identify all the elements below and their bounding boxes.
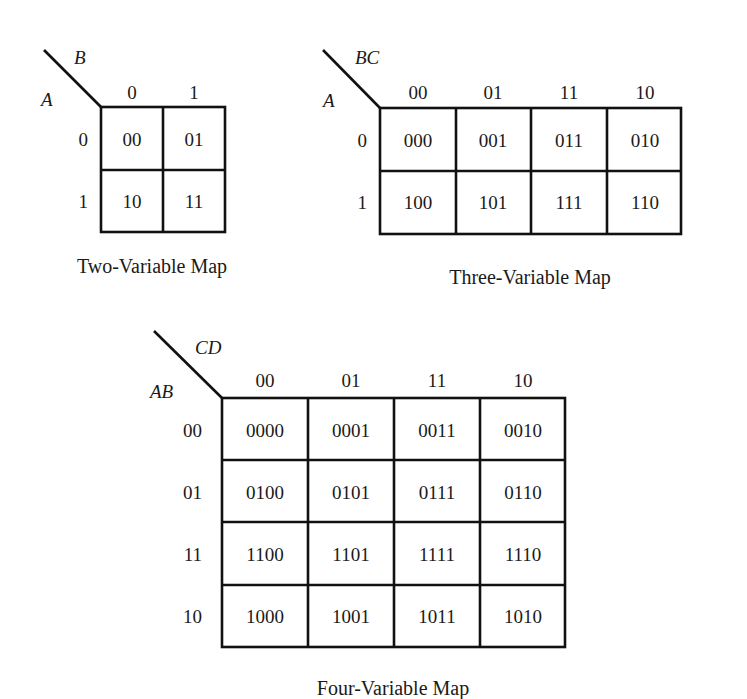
map-cell: 0010 [504,420,542,441]
map-cell: 001 [479,130,508,151]
row-header: 1 [79,191,89,212]
column-header: 00 [409,82,428,103]
column-variable-label: CD [195,337,222,358]
map-cell: 101 [479,192,508,213]
four-variable-map: CD AB 00 01 11 10 00 01 11 10 0000 0001 … [148,331,565,699]
map-cell: 011 [555,130,583,151]
row-header: 0 [358,130,368,151]
row-variable-label: A [321,90,335,111]
map-cell: 0011 [418,420,455,441]
row-variable-label: A [39,89,53,110]
map-cell: 11 [185,191,203,212]
row-header: 01 [183,482,202,503]
map-cell: 1111 [419,544,455,565]
map-cell: 1001 [332,606,370,627]
map-caption: Four-Variable Map [317,677,469,699]
row-header: 10 [183,606,202,627]
column-header: 00 [256,370,275,391]
column-header: 0 [127,82,137,103]
map-cell: 1100 [246,544,283,565]
map-cell: 1110 [505,544,542,565]
map-caption: Two-Variable Map [77,255,227,278]
column-header: 11 [428,370,446,391]
column-header: 1 [189,82,199,103]
map-cell: 1011 [418,606,455,627]
column-header: 10 [636,82,655,103]
map-cell: 10 [123,191,142,212]
map-cell: 0101 [332,482,370,503]
map-cell: 0000 [246,420,284,441]
map-caption: Three-Variable Map [449,266,611,289]
row-header: 11 [184,544,202,565]
map-cell: 111 [555,192,582,213]
three-variable-map: BC A 00 01 11 10 0 1 000 001 011 010 100… [321,47,681,289]
column-variable-label: B [74,47,86,68]
column-header: 01 [342,370,361,391]
map-cell: 110 [631,192,659,213]
karnaugh-maps-figure: B A 0 1 0 1 00 01 10 11 Two-Variable Map… [0,0,747,699]
column-variable-label: BC [355,47,380,68]
map-cell: 100 [404,192,433,213]
map-cell: 1010 [504,606,542,627]
row-header: 00 [183,420,202,441]
column-header: 10 [514,370,533,391]
map-cell: 010 [631,130,660,151]
row-variable-label: AB [148,381,174,402]
two-variable-map: B A 0 1 0 1 00 01 10 11 Two-Variable Map [39,47,227,278]
map-cell: 000 [404,130,433,151]
map-cell: 0001 [332,420,370,441]
map-cell: 0110 [504,482,541,503]
row-header: 0 [79,129,89,150]
map-cell: 0111 [419,482,456,503]
map-cell: 1000 [246,606,284,627]
column-header: 01 [484,82,503,103]
map-cell: 0100 [246,482,284,503]
column-header: 11 [560,82,578,103]
map-cell: 1101 [332,544,369,565]
map-cell: 01 [185,129,204,150]
map-cell: 00 [123,129,142,150]
row-header: 1 [358,192,368,213]
